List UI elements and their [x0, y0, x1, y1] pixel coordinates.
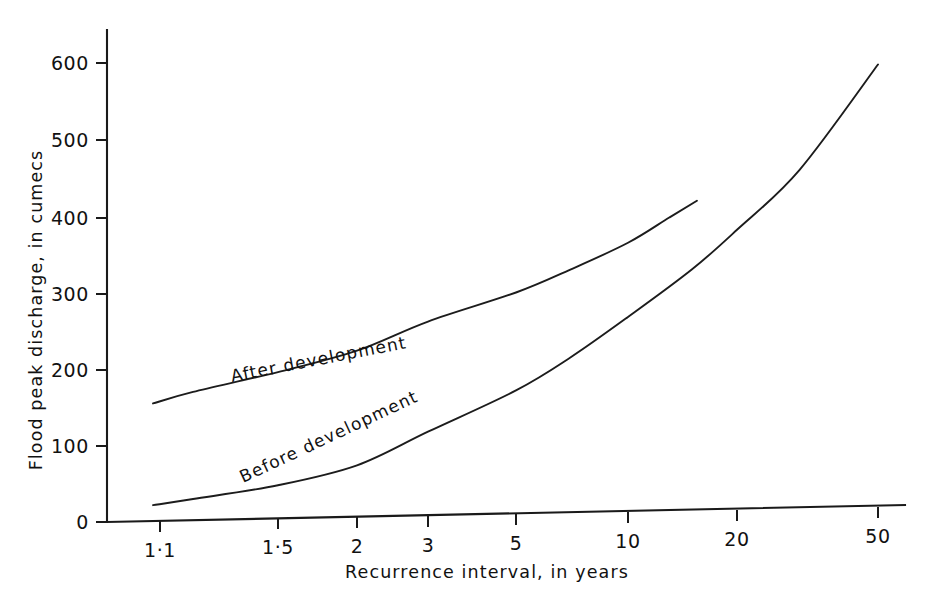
x-tick-label-5: 5 [510, 532, 523, 554]
y-tick-label-600: 600 [51, 52, 89, 74]
x-tick-label-50: 50 [865, 525, 890, 547]
x-tick-label-1-5: 1·5 [262, 536, 294, 558]
chart-canvas: 600 500 400 300 200 100 0 1·1 1·5 2 3 5 … [0, 0, 930, 590]
y-tick-label-200: 200 [51, 359, 89, 381]
y-tick-label-400: 400 [51, 207, 89, 229]
y-tick-label-300: 300 [51, 283, 89, 305]
series-line-before-development [153, 65, 878, 506]
x-tick-label-2: 2 [351, 535, 364, 557]
y-tick-label-0: 0 [76, 511, 89, 533]
y-axis-title: Flood peak discharge, in cumecs [26, 150, 46, 471]
x-axis-title: Recurrence interval, in years [345, 562, 629, 582]
x-tick-label-10: 10 [615, 530, 640, 552]
y-tick-label-500: 500 [51, 129, 89, 151]
x-tick-label-20: 20 [724, 528, 749, 550]
y-axis-ticks [96, 63, 107, 522]
x-axis-line [107, 505, 905, 522]
series-label-before-development: Before development [236, 386, 421, 486]
x-tick-label-3: 3 [422, 534, 435, 556]
flood-frequency-chart: 600 500 400 300 200 100 0 1·1 1·5 2 3 5 … [0, 0, 930, 590]
series-label-after-development: After development [229, 332, 408, 386]
x-tick-label-1-1: 1·1 [144, 539, 176, 561]
y-tick-label-100: 100 [51, 435, 89, 457]
